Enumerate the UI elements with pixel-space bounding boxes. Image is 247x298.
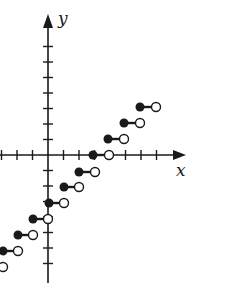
step-segment — [89, 151, 114, 160]
closed-dot-icon — [45, 199, 54, 208]
closed-dot-icon — [60, 183, 69, 192]
open-circle-icon — [60, 199, 69, 208]
step-segment — [136, 103, 161, 112]
step-segment — [0, 263, 8, 272]
open-circle-icon — [14, 247, 23, 256]
step-segment — [104, 135, 129, 144]
open-circle-icon — [0, 263, 8, 272]
step-segment — [75, 168, 100, 177]
closed-dot-icon — [136, 103, 145, 112]
axes — [0, 14, 186, 283]
closed-dot-icon — [14, 231, 23, 240]
step-segment — [120, 119, 145, 128]
open-circle-icon — [29, 231, 38, 240]
x-axis-label: x — [176, 160, 186, 180]
closed-dot-icon — [0, 247, 8, 256]
open-circle-icon — [44, 215, 53, 224]
open-circle-icon — [105, 151, 114, 160]
open-circle-icon — [75, 183, 84, 192]
step-segment — [14, 231, 38, 240]
steps — [0, 103, 161, 272]
closed-dot-icon — [104, 135, 113, 144]
open-circle-icon — [152, 103, 161, 112]
open-circle-icon — [120, 135, 129, 144]
closed-dot-icon — [75, 168, 84, 177]
step-segment — [29, 215, 53, 224]
closed-dot-icon — [29, 215, 38, 224]
open-circle-icon — [136, 119, 145, 128]
step-function-graph: y x — [0, 0, 247, 298]
step-segment — [0, 247, 23, 256]
x-axis-arrow-icon — [173, 150, 186, 160]
step-segment — [60, 183, 84, 192]
y-axis-label: y — [57, 8, 68, 28]
closed-dot-icon — [120, 119, 129, 128]
open-circle-icon — [91, 168, 100, 177]
closed-dot-icon — [89, 151, 98, 160]
y-axis-arrow-icon — [43, 14, 53, 28]
step-segment — [45, 199, 69, 208]
